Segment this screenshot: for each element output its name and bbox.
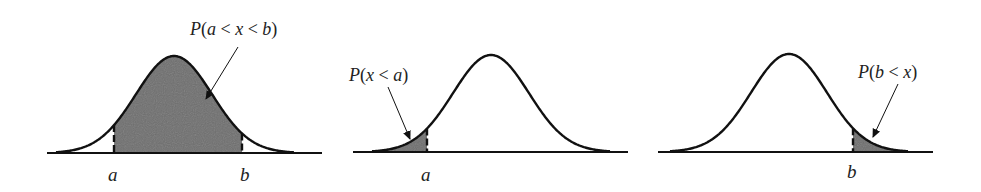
caption-right-tail: P(b < x) (857, 62, 917, 83)
arrow-left-tail (388, 87, 410, 139)
shaded-area (372, 129, 427, 152)
label-a-panel2: a (421, 164, 431, 185)
label-b-panel1: b (240, 164, 250, 185)
caption-between: P(a < x < b) (189, 19, 277, 40)
label-b-panel3: b (847, 161, 857, 182)
caption-left-tail: P(x < a) (348, 65, 408, 86)
shaded-area (114, 56, 242, 153)
arrow-right-tail (873, 84, 898, 137)
panel-between (47, 56, 322, 153)
shaded-area (853, 128, 908, 152)
normal-distribution-figure: a b a b P(a < x < b) P(x < a) P(b < x) (0, 0, 981, 192)
arrow-between (206, 47, 238, 99)
label-a-panel1: a (108, 164, 118, 185)
